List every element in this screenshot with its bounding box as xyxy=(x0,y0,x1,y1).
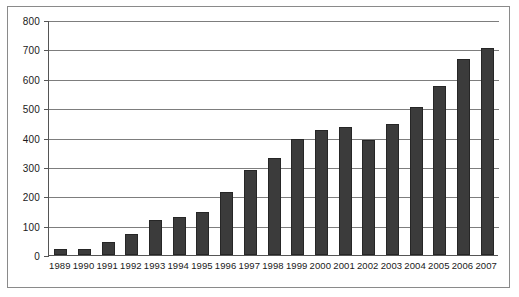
y-axis-tick-label: 800 xyxy=(23,16,40,27)
y-axis-tick-label: 0 xyxy=(34,251,40,262)
x-axis-tick-label: 2007 xyxy=(471,260,501,271)
y-axis-tick-label: 700 xyxy=(23,45,40,56)
y-axis-tick-label: 600 xyxy=(23,74,40,85)
x-axis-ticks: 1989199019911992199319941995199619971998… xyxy=(48,0,498,297)
y-axis-tick-label: 500 xyxy=(23,104,40,115)
y-axis-tick-label: 400 xyxy=(23,133,40,144)
y-axis-tick-label: 300 xyxy=(23,162,40,173)
y-axis-tick-label: 200 xyxy=(23,192,40,203)
y-axis-tick-label: 100 xyxy=(23,221,40,232)
bar-chart: 0100200300400500600700800 19891990199119… xyxy=(0,0,519,297)
